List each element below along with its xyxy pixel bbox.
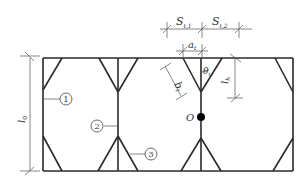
theta-label: θt (203, 66, 211, 77)
s2-label: St,2 (212, 15, 228, 29)
callout-1: 1 (63, 95, 68, 104)
s1-label: St,1 (176, 15, 192, 29)
callout-2: 2 (94, 122, 99, 131)
lh-label: lh (219, 77, 231, 84)
l0-label: l0 (16, 116, 28, 123)
truss-diagram: O St (0, 0, 306, 187)
dimension-lines (20, 22, 252, 175)
node-o (197, 113, 205, 121)
frame (43, 58, 293, 171)
bracing (43, 58, 293, 171)
dimension-labels: St,1 St,2 at bt lh θt l0 (16, 15, 231, 123)
callouts: 1 2 3 (60, 93, 157, 160)
callout-3: 3 (148, 150, 153, 159)
node-o-label: O (186, 112, 194, 123)
a-label: at (188, 39, 197, 51)
